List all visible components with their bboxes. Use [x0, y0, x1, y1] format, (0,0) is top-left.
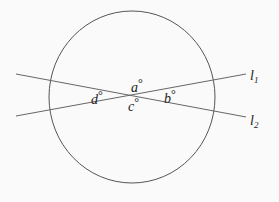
label-l1: l1 — [250, 68, 258, 85]
label-l2: l2 — [250, 113, 259, 130]
circle-intersecting-lines-diagram: l1 l2 a° b° c° d° — [0, 0, 279, 202]
angle-a-label: a° — [131, 76, 143, 95]
angle-c-label: c° — [128, 95, 139, 114]
circle — [49, 11, 215, 183]
angle-d-label: d° — [91, 88, 103, 107]
